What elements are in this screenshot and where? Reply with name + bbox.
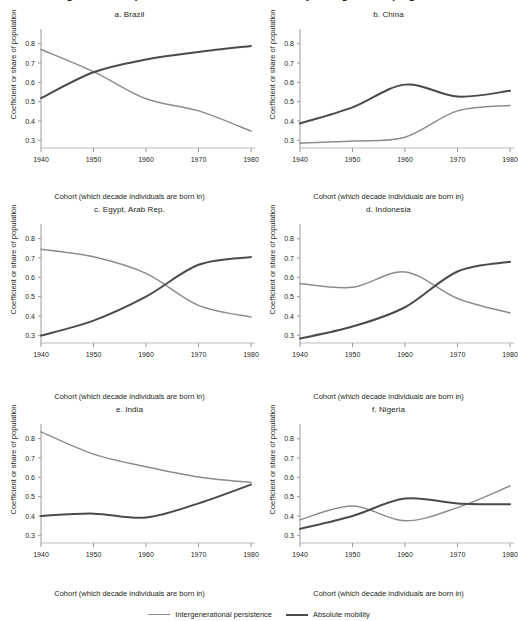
y-tick-label: 0.3: [284, 532, 294, 539]
y-tick-label: 0.4: [284, 313, 294, 320]
x-tick-label: 1940: [33, 551, 49, 558]
series-line-absolute-mobility: [41, 46, 251, 98]
y-tick-label: 0.6: [284, 79, 294, 86]
y-tick-label: 0.6: [284, 474, 294, 481]
legend: Intergenerational persistence Absolute m…: [0, 610, 518, 619]
x-tick-label: 1970: [450, 551, 466, 558]
x-tick-label: 1970: [191, 551, 207, 558]
plot-area: 0.30.40.50.60.70.819401950196019701980: [259, 215, 518, 379]
y-tick-label: 0.7: [25, 255, 35, 262]
x-tick-label: 1940: [292, 156, 308, 163]
y-tick-label: 0.4: [284, 118, 294, 125]
x-tick-label: 1970: [450, 156, 466, 163]
x-axis-label: Cohort (which decade individuals are bor…: [0, 589, 259, 598]
x-axis-label: Cohort (which decade individuals are bor…: [0, 392, 259, 401]
y-tick-label: 0.3: [25, 532, 35, 539]
plot-svg: 0.30.40.50.60.70.819401950196019701980: [259, 20, 518, 180]
plot-svg: 0.30.40.50.60.70.819401950196019701980: [259, 215, 518, 375]
series-line-absolute-mobility: [41, 257, 251, 336]
plot-svg: 0.30.40.50.60.70.819401950196019701980: [0, 215, 259, 375]
figure-root: Intergenerational persistence and absolu…: [0, 0, 518, 621]
x-tick-label: 1950: [345, 351, 361, 358]
y-tick-label: 0.3: [25, 137, 35, 144]
x-tick-label: 1950: [345, 551, 361, 558]
x-tick-label: 1980: [502, 156, 518, 163]
legend-line-icon-mobility: [286, 614, 308, 616]
x-tick-label: 1980: [502, 551, 518, 558]
y-tick-label: 0.8: [25, 235, 35, 242]
x-tick-label: 1980: [502, 351, 518, 358]
x-tick-label: 1950: [86, 156, 102, 163]
y-tick-label: 0.7: [25, 455, 35, 462]
panel-title: c. Egypt, Arab Rep.: [0, 205, 259, 214]
x-tick-label: 1940: [292, 351, 308, 358]
y-tick-label: 0.5: [25, 493, 35, 500]
plot-svg: 0.30.40.50.60.70.819401950196019701980: [0, 20, 259, 180]
y-tick-label: 0.4: [25, 118, 35, 125]
x-tick-label: 1970: [191, 156, 207, 163]
legend-label: Absolute mobility: [313, 610, 370, 619]
x-tick-label: 1960: [397, 351, 413, 358]
legend-label: Intergenerational persistence: [175, 610, 272, 619]
x-tick-label: 1960: [397, 551, 413, 558]
x-axis-label: Cohort (which decade individuals are bor…: [0, 192, 259, 201]
x-tick-label: 1940: [33, 351, 49, 358]
legend-item-persistence: Intergenerational persistence: [148, 610, 272, 619]
y-tick-label: 0.7: [284, 455, 294, 462]
x-tick-label: 1950: [86, 551, 102, 558]
figure-title-clipped: Intergenerational persistence and absolu…: [0, 0, 518, 3]
y-tick-label: 0.8: [25, 435, 35, 442]
series-line-absolute-mobility: [41, 485, 251, 518]
y-tick-label: 0.4: [284, 513, 294, 520]
panel-nigeria: f. Nigeria Coefficient or share of popul…: [259, 403, 518, 600]
series-line-absolute-mobility: [300, 498, 510, 529]
x-tick-label: 1940: [292, 551, 308, 558]
y-tick-label: 0.5: [284, 293, 294, 300]
y-tick-label: 0.4: [25, 313, 35, 320]
series-line-intergenerational-persistence: [41, 49, 251, 131]
x-tick-label: 1950: [345, 156, 361, 163]
y-tick-label: 0.6: [25, 474, 35, 481]
x-tick-label: 1940: [33, 156, 49, 163]
y-tick-label: 0.5: [25, 293, 35, 300]
panel-china: b. China Coefficient or share of populat…: [259, 8, 518, 203]
plot-area: 0.30.40.50.60.70.819401950196019701980: [0, 415, 259, 579]
panel-title: d. Indonesia: [259, 205, 518, 214]
plot-area: 0.30.40.50.60.70.819401950196019701980: [259, 415, 518, 579]
plot-svg: 0.30.40.50.60.70.819401950196019701980: [259, 415, 518, 575]
plot-area: 0.30.40.50.60.70.819401950196019701980: [259, 20, 518, 184]
y-tick-label: 0.5: [25, 98, 35, 105]
series-line-intergenerational-persistence: [300, 105, 510, 143]
y-tick-label: 0.8: [284, 235, 294, 242]
x-tick-label: 1950: [86, 351, 102, 358]
panel-indonesia: d. Indonesia Coefficient or share of pop…: [259, 203, 518, 403]
y-tick-label: 0.5: [284, 98, 294, 105]
x-tick-label: 1960: [138, 351, 154, 358]
plot-area: 0.30.40.50.60.70.819401950196019701980: [0, 20, 259, 184]
panel-india: e. India Coefficient or share of populat…: [0, 403, 259, 600]
y-tick-label: 0.7: [25, 60, 35, 67]
series-line-absolute-mobility: [300, 84, 510, 123]
x-axis-label: Cohort (which decade individuals are bor…: [259, 192, 518, 201]
x-tick-label: 1980: [243, 156, 259, 163]
panel-grid: a. Brazil Coefficient or share of popula…: [0, 8, 518, 600]
x-tick-label: 1980: [243, 551, 259, 558]
y-tick-label: 0.3: [25, 332, 35, 339]
figure-title: Intergenerational persistence and absolu…: [0, 0, 518, 1]
legend-item-mobility: Absolute mobility: [286, 610, 370, 619]
panel-title: a. Brazil: [0, 10, 259, 19]
panel-brazil: a. Brazil Coefficient or share of popula…: [0, 8, 259, 203]
y-tick-label: 0.6: [25, 274, 35, 281]
x-tick-label: 1970: [450, 351, 466, 358]
y-tick-label: 0.8: [284, 40, 294, 47]
y-tick-label: 0.6: [25, 79, 35, 86]
y-tick-label: 0.8: [25, 40, 35, 47]
x-tick-label: 1960: [397, 156, 413, 163]
series-line-intergenerational-persistence: [41, 432, 251, 483]
y-tick-label: 0.4: [25, 513, 35, 520]
y-tick-label: 0.6: [284, 274, 294, 281]
panel-title: b. China: [259, 10, 518, 19]
plot-area: 0.30.40.50.60.70.819401950196019701980: [0, 215, 259, 379]
y-tick-label: 0.7: [284, 60, 294, 67]
panel-title: f. Nigeria: [259, 405, 518, 414]
